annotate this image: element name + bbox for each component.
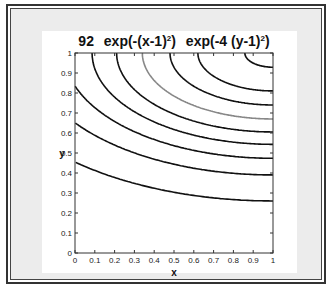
y-tick-label: 0.3 [61, 189, 73, 198]
x-tick-label: 1 [271, 256, 276, 265]
contour-chart: 92 exp(-(x-1)2) exp(-4 (y-1)2) 00.10.20.… [0, 0, 334, 296]
x-tick-label: 0.7 [208, 256, 220, 265]
y-tick-label: 0.8 [61, 89, 73, 98]
contour-line [170, 53, 273, 105]
y-axis-ticks: 00.10.20.30.40.50.60.70.80.91 [61, 49, 273, 258]
chart-title: 92 exp(-(x-1)2) exp(-4 (y-1)2) [78, 33, 269, 49]
y-tick-label: 1 [68, 49, 73, 58]
x-tick-label: 0.9 [248, 256, 260, 265]
y-tick-label: 0.4 [61, 169, 73, 178]
contour-line [75, 86, 273, 158]
x-tick-label: 0.5 [168, 256, 180, 265]
y-tick-label: 0.6 [61, 129, 73, 138]
contour-line [76, 162, 273, 201]
x-tick-label: 0.2 [109, 256, 121, 265]
y-axis-label: y [59, 148, 65, 159]
x-tick-label: 0.3 [129, 256, 141, 265]
contour-lines [75, 53, 273, 201]
x-tick-label: 0.8 [228, 256, 240, 265]
x-tick-label: 0.4 [149, 256, 161, 265]
contour-line [198, 53, 273, 91]
x-tick-label: 0.6 [188, 256, 200, 265]
y-tick-label: 0.7 [61, 109, 73, 118]
x-tick-label: 0 [73, 256, 78, 265]
y-tick-label: 0.1 [61, 229, 73, 238]
y-tick-label: 0 [68, 249, 73, 258]
y-tick-label: 0.2 [61, 209, 73, 218]
x-tick-label: 0.1 [89, 256, 101, 265]
x-axis-label: x [171, 267, 177, 278]
contour-line [117, 53, 273, 132]
contour-line [245, 53, 273, 67]
y-tick-label: 0.9 [61, 69, 73, 78]
plot-area [75, 53, 273, 253]
